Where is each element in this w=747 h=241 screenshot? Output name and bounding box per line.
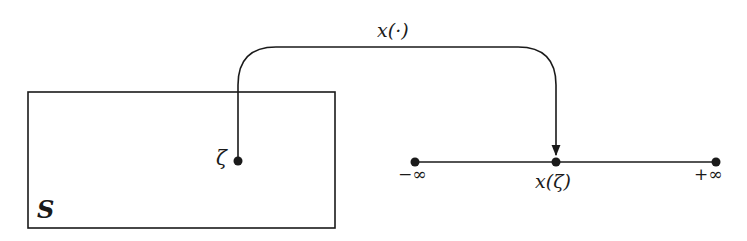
sample-space-box <box>28 92 335 228</box>
minus-infinity-label: −∞ <box>398 164 426 184</box>
mapping-arrow <box>238 47 556 161</box>
plus-infinity-label: +∞ <box>694 164 722 184</box>
image-point-label: x(ζ) <box>535 170 571 192</box>
outcome-label: ζ <box>216 146 228 170</box>
mapping-label: x(·) <box>377 19 409 41</box>
image-point <box>552 158 561 167</box>
outcome-point <box>234 157 243 166</box>
sample-space-label: S <box>37 195 54 224</box>
random-variable-mapping-diagram: S x(·) ζ −∞ +∞ x(ζ) <box>0 0 747 241</box>
